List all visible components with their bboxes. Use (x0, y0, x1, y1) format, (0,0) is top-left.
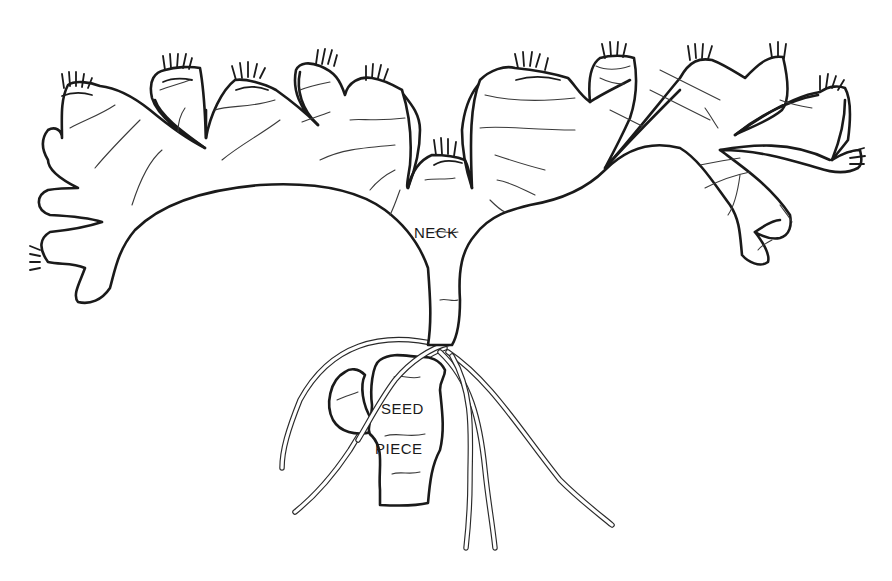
canopy (39, 56, 861, 345)
diagram-canvas: NECK SEED PIECE (0, 0, 892, 581)
label-seed: SEED (381, 400, 424, 417)
label-piece: PIECE (375, 440, 423, 457)
label-neck: NECK (414, 224, 458, 241)
seed-piece (329, 355, 445, 505)
plant-drawing (0, 0, 892, 581)
roots (282, 340, 612, 548)
